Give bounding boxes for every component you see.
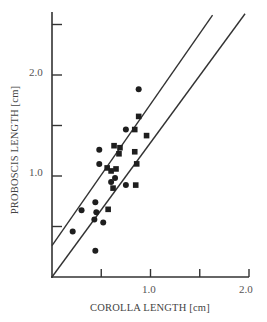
circle-point [93, 209, 99, 215]
square-point [134, 161, 140, 167]
circle-point [136, 86, 142, 92]
square-point [105, 207, 111, 213]
square-point [116, 151, 122, 157]
x-tick-label-1: 1.0 [142, 283, 156, 295]
data-points [70, 86, 150, 254]
y-tick-label-1: 1.0 [29, 166, 43, 178]
square-point [133, 182, 139, 188]
circle-point [96, 147, 102, 153]
circle-point [70, 229, 76, 235]
square-point [117, 145, 123, 151]
circle-point [92, 248, 98, 254]
scatter-chart: 1.0 2.0 1.0 2.0 COROLLA LENGTH [cm] PROB… [0, 0, 267, 322]
x-tick-label-2: 2.0 [239, 283, 253, 295]
square-point [132, 149, 138, 155]
regression-lines [52, 14, 245, 277]
y-axis-label: PROBOSCIS LENGTH [cm] [9, 86, 20, 214]
square-point [144, 133, 150, 139]
square-point [108, 168, 114, 174]
square-point [132, 127, 138, 133]
circle-point [123, 182, 129, 188]
square-point [113, 166, 119, 172]
x-ticks [101, 269, 249, 277]
circle-point [100, 219, 106, 225]
y-ticks [52, 25, 62, 227]
circle-point [123, 127, 129, 133]
square-point [111, 143, 117, 149]
circle-point [91, 216, 97, 222]
regression-line-b [52, 14, 245, 277]
circle-point [96, 161, 102, 167]
x-axis-label: COROLLA LENGTH [cm] [90, 302, 210, 313]
y-tick-label-2: 2.0 [29, 66, 43, 78]
circle-point [108, 179, 114, 185]
circle-point [92, 199, 98, 205]
square-point [110, 185, 116, 191]
square-point [136, 114, 142, 120]
circle-point [79, 207, 85, 213]
